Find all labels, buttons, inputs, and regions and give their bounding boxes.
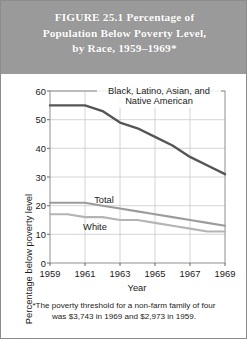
figure-title: FIGURE 25.1 Percentage of Population Bel… (15, 10, 234, 57)
y-tick-label-40: 40 (36, 143, 46, 154)
x-axis-title: Year (128, 282, 147, 293)
series-label-total: Total (94, 195, 114, 205)
x-tick-label-1959: 1959 (40, 268, 61, 279)
y-tick-label-60: 60 (36, 86, 46, 97)
x-tick-label-1963: 1963 (110, 268, 131, 279)
x-tick-label-1961: 1961 (75, 268, 96, 279)
poverty-line-chart: Percentage below poverty level 60 50 40 … (1, 74, 247, 339)
x-tick-label-1967: 1967 (180, 268, 201, 279)
y-tick-label-0: 0 (41, 258, 46, 269)
y-tick-label-30: 30 (36, 172, 46, 183)
x-tick-label-1969: 1969 (215, 268, 236, 279)
y-tick-label-10: 10 (36, 229, 46, 240)
series-label-minority-line2: Native American (125, 96, 193, 106)
series-label-minority-line1: Black, Latino, Asian, and (108, 86, 210, 96)
y-tick-label-20: 20 (36, 200, 46, 211)
figure-card: FIGURE 25.1 Percentage of Population Bel… (0, 0, 247, 339)
series-line-total (50, 203, 225, 226)
series-line-white (50, 214, 225, 231)
y-tick-label-50: 50 (36, 114, 46, 125)
series-line-minority (50, 105, 225, 174)
footnote-line-2: was $3,743 in 1969 and $2,973 in 1959. (51, 312, 196, 321)
figure-title-band: FIGURE 25.1 Percentage of Population Bel… (1, 1, 247, 74)
chart-area: Percentage below poverty level 60 50 40 … (1, 74, 247, 339)
x-tick-label-1965: 1965 (145, 268, 166, 279)
series-label-white: White (83, 222, 107, 232)
footnote-line-1: *The poverty threshold for a non-farm fa… (32, 301, 215, 310)
